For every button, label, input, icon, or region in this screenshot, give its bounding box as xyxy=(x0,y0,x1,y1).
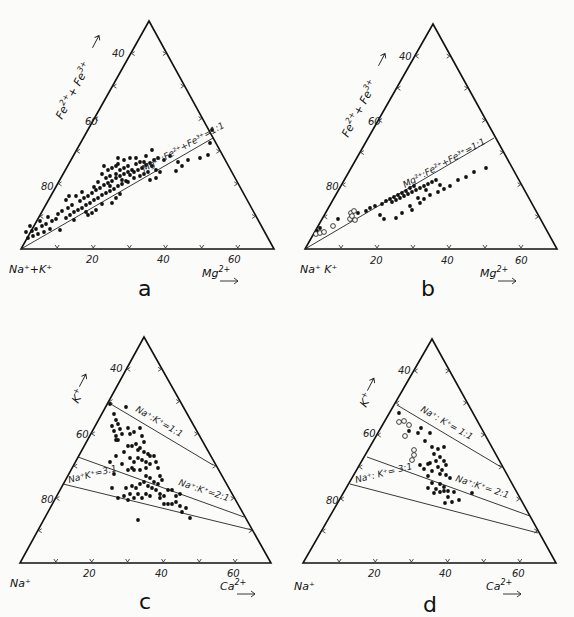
data-point xyxy=(154,168,158,172)
bottom-tick-40-c: 40 xyxy=(155,568,168,579)
data-point xyxy=(118,427,122,431)
data-point xyxy=(442,489,446,493)
data-point xyxy=(134,442,138,446)
data-point xyxy=(122,158,126,162)
data-point xyxy=(442,187,446,191)
data-point xyxy=(336,217,340,221)
data-point xyxy=(331,224,336,229)
data-point xyxy=(430,445,434,449)
bottom-tick-20-d: 20 xyxy=(368,568,381,579)
triangle-frame-d xyxy=(303,339,556,563)
data-point xyxy=(114,196,118,200)
data-point xyxy=(90,191,94,195)
data-point xyxy=(126,426,130,430)
data-point xyxy=(158,170,162,174)
data-point xyxy=(180,510,184,514)
data-point xyxy=(122,494,126,498)
data-point xyxy=(104,191,108,195)
data-point xyxy=(438,455,442,459)
data-point xyxy=(118,192,122,196)
panel-label-a: a xyxy=(138,276,151,301)
data-point xyxy=(78,199,82,203)
reference-label-c-1-1: Na⁺:K⁺=1:1 xyxy=(134,404,185,439)
data-point xyxy=(410,190,414,194)
data-point xyxy=(132,430,136,434)
data-point xyxy=(464,175,468,179)
data-point xyxy=(444,473,448,477)
data-point xyxy=(382,217,386,221)
data-point xyxy=(128,432,132,436)
data-point xyxy=(426,182,430,186)
data-point xyxy=(162,494,166,498)
data-point xyxy=(108,189,112,193)
data-point xyxy=(42,230,46,234)
data-point xyxy=(58,228,62,232)
vertex-label-na-k-a: Na⁺+K⁺ xyxy=(9,263,52,276)
data-point xyxy=(318,226,322,230)
data-point xyxy=(148,178,152,182)
tick-marks-d xyxy=(322,369,537,562)
data-point xyxy=(54,217,58,221)
data-point xyxy=(26,236,30,240)
data-point xyxy=(394,216,398,220)
data-point xyxy=(438,183,442,187)
data-point xyxy=(130,484,134,488)
data-point xyxy=(160,478,164,482)
data-point xyxy=(418,201,422,205)
data-point xyxy=(384,199,388,203)
data-point xyxy=(176,160,180,164)
data-point xyxy=(122,450,126,454)
data-point xyxy=(132,496,136,500)
data-point xyxy=(408,204,412,208)
left-axis-label-d: K+ xyxy=(355,376,382,410)
svg-text:K+: K+ xyxy=(67,386,87,405)
data-point xyxy=(158,492,162,496)
data-point xyxy=(110,179,114,183)
ternary-panel-d: 20 40 60 40 60 80 Na⁺ Ca2+ K+ Na⁺: K⁺= 1… xyxy=(294,339,556,617)
data-point xyxy=(434,459,438,463)
data-point xyxy=(34,227,38,231)
data-point xyxy=(166,502,170,506)
vertex-label-mg-b: Mg2+ xyxy=(480,265,508,280)
reference-label-b: Mg²⁺:Fe²⁺+Fe³⁺=1:1 xyxy=(401,136,487,190)
data-point xyxy=(64,198,68,202)
data-point xyxy=(428,193,432,197)
data-point xyxy=(156,466,160,470)
data-point xyxy=(180,164,184,168)
data-point xyxy=(150,148,154,152)
data-point xyxy=(136,492,140,496)
data-point xyxy=(406,192,410,196)
triangle-frame-c xyxy=(20,337,271,563)
left-tick-60-d: 60 xyxy=(363,428,376,439)
data-point xyxy=(154,460,158,464)
data-point xyxy=(114,454,118,458)
data-point xyxy=(126,180,130,184)
data-point xyxy=(170,488,174,492)
data-point xyxy=(419,426,423,430)
data-point xyxy=(432,491,436,495)
data-point xyxy=(144,466,148,470)
data-point xyxy=(126,164,130,168)
data-point xyxy=(108,184,112,188)
data-point xyxy=(174,500,178,504)
data-point xyxy=(350,214,355,219)
data-point xyxy=(126,444,130,448)
data-point xyxy=(122,172,126,176)
data-point xyxy=(174,169,178,173)
left-tick-80-c: 80 xyxy=(41,494,54,505)
data-point xyxy=(70,203,74,207)
data-point xyxy=(134,162,138,166)
data-point xyxy=(44,222,48,226)
data-point xyxy=(142,450,146,454)
data-point xyxy=(430,180,434,184)
data-point xyxy=(126,468,130,472)
data-point xyxy=(124,405,128,409)
data-point xyxy=(390,200,394,204)
data-point xyxy=(438,482,442,486)
bottom-tick-60-b: 60 xyxy=(515,255,528,266)
data-point xyxy=(436,465,440,469)
data-point xyxy=(208,141,212,145)
bottom-tick-60-a: 60 xyxy=(228,254,241,265)
data-point xyxy=(124,486,128,490)
bottom-tick-20-c: 20 xyxy=(83,568,96,579)
